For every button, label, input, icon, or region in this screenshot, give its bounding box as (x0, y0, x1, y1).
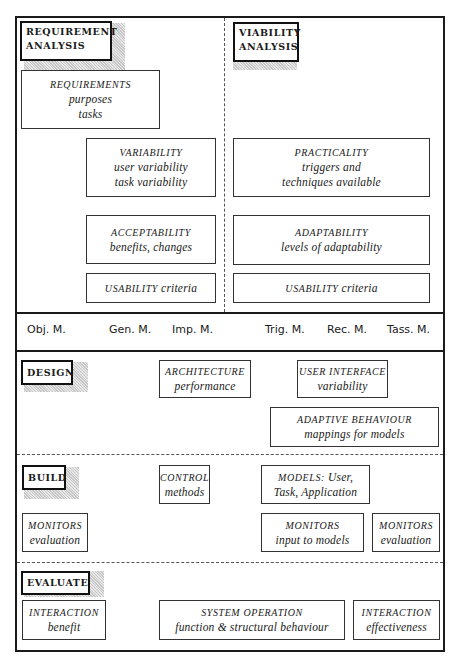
design-build-divider (17, 454, 443, 455)
model-imp: Imp. M. (172, 323, 213, 336)
monitors-evaluation-box-left: MONITORS evaluation (22, 513, 88, 552)
architecture-box: ARCHITECTURE performance (159, 360, 251, 398)
monitors-evaluation-box-right: MONITORS evaluation (372, 513, 440, 552)
user-interface-box: USER INTERFACE variability (297, 360, 388, 398)
model-rec: Rec. M. (327, 323, 367, 336)
adaptive-behaviour-box: ADAPTIVE BEHAVIOUR mappings for models (270, 407, 439, 447)
usability-criteria-box-right: USABILITY criteria (233, 273, 430, 303)
interaction-benefit-box: INTERACTION benefit (22, 600, 106, 640)
monitors-input-box: MONITORS input to models (261, 513, 364, 552)
build-evaluate-divider (17, 562, 443, 563)
model-tass: Tass. M. (387, 323, 430, 336)
practicality-box: PRACTICALITY triggers and techniques ava… (233, 138, 430, 197)
acceptability-box: ACCEPTABILITY benefits, changes (86, 215, 216, 264)
interaction-effectiveness-box: INTERACTION effectiveness (353, 600, 440, 640)
usability-criteria-box-left: USABILITY criteria (86, 273, 216, 303)
models-band-frame (15, 312, 445, 352)
analysis-divider (224, 18, 225, 312)
requirements-box: REQUIREMENTS purposes tasks (21, 70, 160, 129)
model-obj: Obj. M. (27, 323, 66, 336)
model-gen: Gen. M. (109, 323, 151, 336)
adaptability-box: ADAPTABILITY levels of adaptability (233, 215, 430, 265)
control-box: CONTROL methods (159, 465, 210, 504)
model-trig: Trig. M. (265, 323, 305, 336)
variability-box: VARIABILITY user variability task variab… (86, 138, 216, 197)
models-box: MODELS: User, Task, Application (261, 465, 370, 504)
system-operation-box: SYSTEM OPERATION function & structural b… (159, 600, 345, 640)
